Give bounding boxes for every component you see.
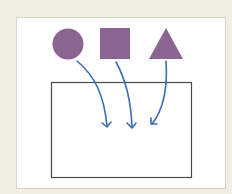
diagram-canvas: [0, 0, 232, 194]
square-shape: [100, 28, 130, 59]
circle-shape: [53, 29, 84, 60]
